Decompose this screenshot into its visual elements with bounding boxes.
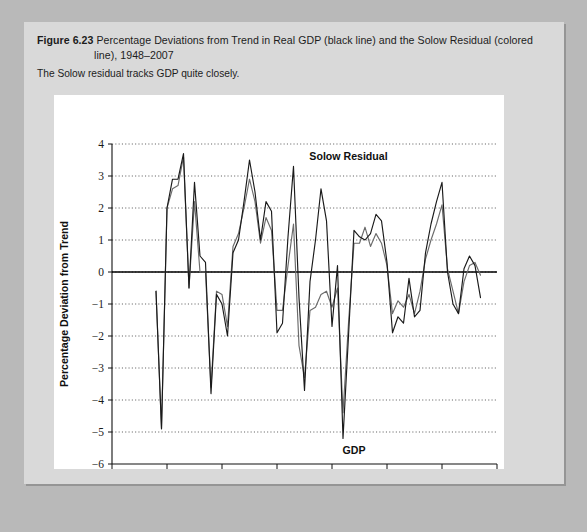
y-tick-label: −1: [92, 298, 104, 310]
series-line-gdp: [156, 154, 481, 439]
figure-caption-line-2: line), 1948–2007: [37, 48, 550, 63]
figure-caption-line-1: Figure 6.23 Percentage Deviations from T…: [37, 33, 550, 48]
series-line-solow-residual: [156, 157, 481, 429]
screenshot-root: Figure 6.23 Percentage Deviations from T…: [0, 0, 587, 532]
figure-subtitle: The Solow residual tracks GDP quite clos…: [37, 67, 550, 81]
y-tick-label: 3: [98, 170, 104, 182]
y-axis-title: Percentage Deviation from Trend: [58, 221, 70, 387]
annotation-solow-residual: Solow Residual: [309, 150, 387, 162]
figure-caption-text-1: Percentage Deviations from Trend in Real…: [96, 34, 532, 46]
y-axis-ticks: −6−5−4−3−2−101234: [92, 138, 112, 469]
figure-number: Figure 6.23: [37, 34, 93, 46]
annotation-gdp: GDP: [343, 444, 366, 456]
y-tick-label: −6: [92, 458, 104, 469]
y-tick-label: 0: [98, 266, 104, 278]
plot-card: −6−5−4−3−2−101234 1940195019601970198019…: [54, 95, 504, 469]
y-tick-label: −3: [92, 362, 104, 374]
chart-svg: −6−5−4−3−2−101234 1940195019601970198019…: [54, 95, 504, 469]
y-tick-label: −2: [92, 330, 104, 342]
y-tick-label: −4: [92, 394, 104, 406]
figure-header: Figure 6.23 Percentage Deviations from T…: [37, 33, 550, 81]
y-tick-label: −5: [92, 426, 104, 438]
y-tick-label: 2: [98, 202, 104, 214]
y-tick-label: 4: [98, 138, 104, 150]
y-tick-label: 1: [98, 234, 104, 246]
figure-panel: Figure 6.23 Percentage Deviations from T…: [24, 22, 564, 484]
x-axis-ticks: 19401950196019701980199020002010: [101, 464, 505, 469]
